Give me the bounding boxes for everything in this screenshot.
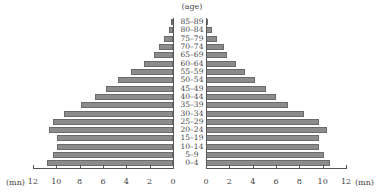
left-bar bbox=[47, 160, 173, 166]
left-bar bbox=[53, 152, 173, 158]
left-axis-tick bbox=[103, 165, 104, 168]
left-value-axis bbox=[33, 168, 174, 169]
left-bar bbox=[81, 102, 173, 108]
left-axis-tick bbox=[126, 165, 127, 168]
right-axis-tick bbox=[253, 165, 254, 168]
right-bar bbox=[206, 111, 304, 117]
right-axis-tick bbox=[346, 165, 347, 168]
left-axis-tick-label: 2 bbox=[140, 177, 160, 186]
left-bar bbox=[131, 69, 173, 75]
left-axis-tick bbox=[80, 165, 81, 168]
left-bar bbox=[164, 36, 173, 42]
left-bar bbox=[57, 144, 173, 150]
left-axis-tick bbox=[173, 165, 174, 168]
right-bar bbox=[206, 52, 227, 58]
right-axis-tick-label: 12 bbox=[336, 177, 356, 186]
population-pyramid-chart: (age) 85–8980–8475–7970–7465–6960–6455–5… bbox=[0, 0, 384, 193]
left-zero-axis bbox=[173, 18, 174, 168]
left-bar bbox=[57, 135, 173, 141]
age-axis-title: (age) bbox=[172, 2, 212, 11]
right-axis-tick-label: 0 bbox=[196, 177, 216, 186]
right-bar bbox=[206, 102, 288, 108]
right-axis-tick bbox=[299, 165, 300, 168]
left-bar bbox=[64, 111, 173, 117]
left-axis-tick bbox=[150, 165, 151, 168]
right-axis-tick-label: 2 bbox=[219, 177, 239, 186]
right-bar bbox=[206, 94, 276, 100]
left-axis-tick-label: 0 bbox=[163, 177, 183, 186]
age-group-label: 35–39 bbox=[176, 101, 208, 109]
left-axis-tick bbox=[33, 165, 34, 168]
right-bar bbox=[206, 119, 319, 125]
left-bar bbox=[106, 86, 173, 92]
right-axis-tick-label: 6 bbox=[266, 177, 286, 186]
left-bar bbox=[95, 94, 173, 100]
left-bar bbox=[144, 61, 173, 67]
right-axis-tick-label: 10 bbox=[313, 177, 333, 186]
right-bar bbox=[206, 160, 330, 166]
left-bar bbox=[118, 77, 173, 83]
right-axis-tick-label: 8 bbox=[289, 177, 309, 186]
right-bar bbox=[206, 69, 245, 75]
right-axis-tick-label: 4 bbox=[243, 177, 263, 186]
right-axis-tick bbox=[206, 165, 207, 168]
left-bar bbox=[159, 44, 173, 50]
left-bar bbox=[49, 127, 173, 133]
right-bar bbox=[206, 135, 319, 141]
right-bar bbox=[206, 61, 236, 67]
right-bar bbox=[206, 77, 255, 83]
right-bar bbox=[206, 127, 327, 133]
right-axis-tick bbox=[276, 165, 277, 168]
right-bar bbox=[206, 144, 319, 150]
right-bar bbox=[206, 152, 324, 158]
left-axis-tick-label: 4 bbox=[116, 177, 136, 186]
age-group-label: 0–4 bbox=[176, 159, 208, 167]
right-unit-label: (mn) bbox=[355, 178, 374, 187]
left-unit-label: (mn) bbox=[6, 178, 25, 187]
right-axis-tick bbox=[323, 165, 324, 168]
left-axis-tick-label: 12 bbox=[23, 177, 43, 186]
right-zero-axis bbox=[206, 18, 207, 168]
right-value-axis bbox=[206, 168, 347, 169]
right-axis-tick bbox=[229, 165, 230, 168]
left-axis-tick-label: 6 bbox=[93, 177, 113, 186]
right-bar bbox=[206, 86, 266, 92]
right-bar bbox=[206, 44, 224, 50]
left-bar bbox=[53, 119, 173, 125]
left-axis-tick-label: 8 bbox=[70, 177, 90, 186]
left-axis-tick-label: 10 bbox=[46, 177, 66, 186]
left-axis-tick bbox=[56, 165, 57, 168]
right-bar bbox=[206, 36, 217, 42]
left-bar bbox=[154, 52, 173, 58]
